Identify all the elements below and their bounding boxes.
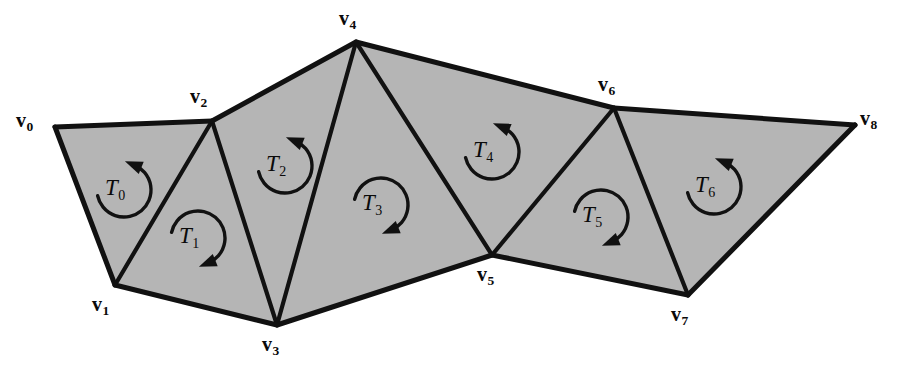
vertex-subscript: 8 bbox=[871, 117, 878, 132]
triangle-label-t5: T5 bbox=[582, 203, 602, 226]
triangle-subscript: 6 bbox=[708, 185, 715, 200]
vertex-symbol: v bbox=[477, 263, 487, 285]
triangle-subscript: 4 bbox=[486, 150, 493, 165]
vertex-label-v8: v8 bbox=[860, 108, 877, 128]
triangle-label-t6: T6 bbox=[695, 173, 715, 196]
triangle-label-t0: T0 bbox=[105, 176, 125, 199]
vertex-symbol: v bbox=[671, 303, 681, 325]
vertex-label-v7: v7 bbox=[671, 304, 688, 324]
vertex-symbol: v bbox=[339, 7, 349, 29]
vertex-label-v5: v5 bbox=[477, 264, 494, 284]
triangle-subscript: 3 bbox=[375, 203, 382, 218]
vertex-label-v4: v4 bbox=[339, 8, 356, 28]
vertex-subscript: 4 bbox=[350, 17, 357, 32]
mesh-canvas bbox=[0, 0, 899, 378]
vertex-symbol: v bbox=[92, 293, 102, 315]
vertex-label-v2: v2 bbox=[190, 86, 207, 106]
vertex-label-v6: v6 bbox=[598, 74, 615, 94]
vertex-subscript: 1 bbox=[103, 303, 110, 318]
triangle-symbol: T bbox=[105, 175, 118, 200]
triangle-label-t4: T4 bbox=[473, 138, 493, 161]
triangle-label-t3: T3 bbox=[362, 191, 382, 214]
vertex-symbol: v bbox=[16, 109, 26, 131]
triangle-symbol: T bbox=[266, 151, 279, 176]
vertex-subscript: 6 bbox=[609, 83, 616, 98]
vertex-symbol: v bbox=[190, 85, 200, 107]
triangle-subscript: 1 bbox=[192, 236, 199, 251]
triangle-subscript: 5 bbox=[595, 215, 602, 230]
vertex-subscript: 0 bbox=[27, 119, 34, 134]
vertex-subscript: 2 bbox=[201, 95, 208, 110]
triangle-symbol: T bbox=[362, 190, 375, 215]
vertex-subscript: 5 bbox=[488, 273, 495, 288]
triangle-subscript: 2 bbox=[279, 164, 286, 179]
vertex-subscript: 7 bbox=[682, 313, 689, 328]
triangle-symbol: T bbox=[695, 172, 708, 197]
triangle-subscript: 0 bbox=[118, 188, 125, 203]
triangle-symbol: T bbox=[473, 137, 486, 162]
vertex-subscript: 3 bbox=[273, 343, 280, 358]
vertex-label-v0: v0 bbox=[16, 110, 33, 130]
vertex-symbol: v bbox=[262, 333, 272, 355]
triangle-label-t2: T2 bbox=[266, 152, 286, 175]
triangle-symbol: T bbox=[179, 223, 192, 248]
triangle-symbol: T bbox=[582, 202, 595, 227]
vertex-symbol: v bbox=[598, 73, 608, 95]
vertex-label-v1: v1 bbox=[92, 294, 109, 314]
vertex-symbol: v bbox=[860, 107, 870, 129]
triangle-strip-figure: v0v1v2v3v4v5v6v7v8 T0T1T2T3T4T5T6 bbox=[0, 0, 899, 378]
triangle-label-t1: T1 bbox=[179, 224, 199, 247]
vertex-label-v3: v3 bbox=[262, 334, 279, 354]
